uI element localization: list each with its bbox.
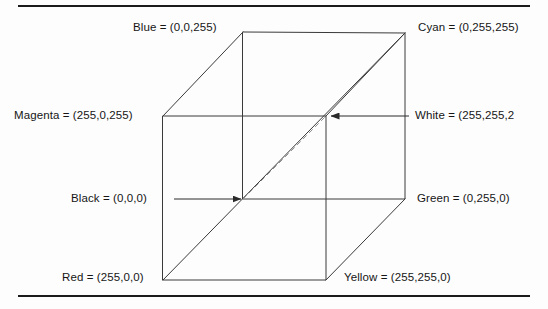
diagonal-red-cyan <box>163 33 405 280</box>
vertex-label-yellow: Yellow = (255,255,0) <box>344 272 451 284</box>
gray-axis-dashed-black-white <box>243 116 326 199</box>
cube-drawing <box>0 0 548 309</box>
vertex-label-white: White = (255,255,2 <box>415 110 514 122</box>
vertex-label-magenta: Magenta = (255,0,255) <box>14 110 133 122</box>
rgb-color-cube-figure: Blue = (0,0,255) Cyan = (0,255,255) Mage… <box>0 0 548 309</box>
vertex-label-black: Black = (0,0,0) <box>71 193 147 205</box>
vertex-label-green: Green = (0,255,0) <box>417 193 510 205</box>
vertex-label-cyan: Cyan = (0,255,255) <box>418 22 519 34</box>
cube-edge-magenta-blue <box>163 32 243 116</box>
vertex-label-red: Red = (255,0,0) <box>62 272 144 284</box>
vertex-label-blue: Blue = (0,0,255) <box>133 22 217 34</box>
cube-edge-yellow-green <box>326 199 405 280</box>
